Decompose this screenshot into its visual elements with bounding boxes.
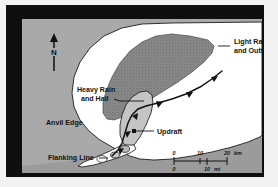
flanking-line-label: Flanking Line <box>48 154 94 162</box>
heavy-rain-label-line1: Heavy Rain <box>77 86 115 94</box>
map-canvas: N Light Rain and Outflow Heavy Rain and … <box>22 19 262 173</box>
storm-plan-view-diagram: N Light Rain and Outflow Heavy Rain and … <box>22 19 262 173</box>
light-rain-label-line2: and Outflow <box>234 47 262 55</box>
plate-frame: N Light Rain and Outflow Heavy Rain and … <box>6 5 264 177</box>
scale-km-unit: km <box>234 150 242 156</box>
heavy-rain-label-line2: and Hail <box>81 95 109 103</box>
scale-mi-unit: mi <box>214 166 221 172</box>
scale-km-tick-20: 20 <box>223 150 230 156</box>
anvil-edge-label: Anvil Edge <box>46 119 83 127</box>
scale-mi-tick-0: 0 <box>173 166 176 172</box>
figure-root: N Light Rain and Outflow Heavy Rain and … <box>0 0 278 187</box>
updraft-label: Updraft <box>157 128 183 136</box>
scale-km-tick-10: 10 <box>197 150 203 156</box>
flanking-cell-1 <box>97 156 107 163</box>
scale-mi-tick-10: 10 <box>204 166 210 172</box>
north-label: N <box>51 48 57 57</box>
updraft-leader-dot <box>132 129 136 133</box>
light-rain-label-line1: Light Rain <box>234 38 262 46</box>
scale-km-tick-0: 0 <box>173 150 176 156</box>
